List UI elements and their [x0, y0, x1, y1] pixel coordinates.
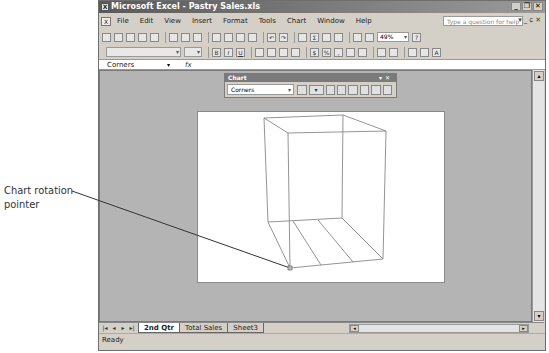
print-icon[interactable]	[169, 33, 178, 42]
font-select[interactable]	[106, 47, 181, 57]
scroll-down-icon[interactable]: ▾	[534, 311, 544, 321]
menu-window[interactable]: Window	[317, 17, 345, 25]
document-icon[interactable]: X	[101, 17, 111, 26]
window-controls: _ ❐ ✕	[511, 2, 543, 11]
percent-icon[interactable]: %	[322, 48, 331, 57]
font-size-select[interactable]	[184, 47, 202, 57]
menu-bar: X File Edit View Insert Format Tools Cha…	[99, 13, 545, 29]
angle-text-downward-icon[interactable]	[371, 85, 380, 95]
chart-toolbar-title-bar[interactable]: Chart ▾✕	[225, 74, 396, 82]
by-column-icon[interactable]	[360, 85, 369, 95]
toolbar-separator	[208, 32, 209, 43]
spelling-icon[interactable]	[193, 33, 202, 42]
horizontal-scrollbar[interactable]: ◂ ▸	[349, 324, 529, 333]
font-color-icon[interactable]: A	[432, 48, 441, 57]
menu-file[interactable]: File	[117, 17, 129, 25]
title-bar: X Microsoft Excel - Pastry Sales.xls _ ❐…	[99, 1, 545, 13]
hyperlink-icon[interactable]	[298, 33, 307, 42]
chart-wizard-icon[interactable]	[353, 33, 362, 42]
print-preview-icon[interactable]	[181, 33, 190, 42]
menu-help[interactable]: Help	[356, 17, 372, 25]
align-center-icon[interactable]	[267, 48, 276, 57]
sheet-tabs: 2nd Qtr Total Sales Sheet3	[139, 323, 264, 333]
restore-button[interactable]: ❐	[522, 2, 532, 11]
format-painter-icon[interactable]	[248, 33, 257, 42]
permission-icon[interactable]	[138, 33, 147, 42]
status-bar: Ready	[99, 333, 545, 346]
copy-icon[interactable]	[224, 33, 233, 42]
italic-icon[interactable]: I	[224, 48, 233, 57]
excel-app-icon: X	[101, 3, 109, 11]
redo-icon[interactable]: ↷	[279, 33, 288, 42]
align-right-icon[interactable]	[279, 48, 288, 57]
increase-indent-icon[interactable]	[389, 48, 398, 57]
prev-sheet-icon[interactable]: ◂	[110, 324, 118, 331]
menu-edit[interactable]: Edit	[140, 17, 154, 25]
drawing-icon[interactable]	[365, 33, 374, 42]
tab-2nd-qtr[interactable]: 2nd Qtr	[138, 323, 180, 333]
decrease-decimal-icon[interactable]	[358, 48, 367, 57]
chart-type-icon[interactable]: ▾	[309, 85, 324, 95]
by-row-icon[interactable]	[348, 85, 357, 95]
next-sheet-icon[interactable]: ▸	[119, 324, 127, 331]
sort-descending-icon[interactable]	[334, 33, 343, 42]
open-icon[interactable]	[114, 33, 123, 42]
vertical-scrollbar[interactable]: ▴ ▾	[532, 70, 544, 322]
scroll-up-icon[interactable]: ▴	[534, 71, 544, 81]
formula-bar: Corners ▾ fx	[99, 59, 545, 70]
toolbar-separator	[251, 47, 252, 58]
close-button[interactable]: ✕	[533, 2, 543, 11]
comma-icon[interactable]: ,	[334, 48, 343, 57]
minimize-button[interactable]: _	[511, 2, 521, 11]
menu-view[interactable]: View	[164, 17, 181, 25]
tab-sheet3[interactable]: Sheet3	[227, 323, 264, 333]
name-box[interactable]: Corners	[99, 60, 157, 70]
new-icon[interactable]	[102, 33, 111, 42]
chart-toolbar: Chart ▾✕ Corners ▾	[224, 73, 397, 98]
format-selected-object-icon[interactable]	[297, 85, 306, 95]
email-icon[interactable]	[150, 33, 159, 42]
name-box-dropdown-icon[interactable]: ▾	[167, 60, 170, 70]
toolbar-separator	[404, 47, 405, 58]
zoom-select[interactable]: 49%	[377, 32, 409, 42]
underline-icon[interactable]: U	[236, 48, 245, 57]
paste-icon[interactable]	[236, 33, 245, 42]
document-window-controls[interactable]: ▾_ɕ✕	[518, 16, 543, 24]
currency-icon[interactable]: $	[310, 48, 319, 57]
undo-icon[interactable]: ↶	[267, 33, 276, 42]
legend-icon[interactable]	[326, 85, 335, 95]
window-title: Microsoft Excel - Pastry Sales.xls	[111, 2, 260, 11]
sort-ascending-icon[interactable]	[322, 33, 331, 42]
menu-chart[interactable]: Chart	[287, 17, 306, 25]
autosum-icon[interactable]: Σ	[310, 33, 319, 42]
borders-icon[interactable]	[408, 48, 417, 57]
angle-text-upward-icon[interactable]	[383, 85, 392, 95]
chart-sheet-area	[99, 70, 532, 322]
last-sheet-icon[interactable]: ▸|	[128, 324, 136, 331]
increase-decimal-icon[interactable]	[346, 48, 355, 57]
fill-color-icon[interactable]	[420, 48, 429, 57]
fx-icon[interactable]: fx	[185, 60, 192, 70]
cut-icon[interactable]	[212, 33, 221, 42]
menu-format[interactable]: Format	[223, 17, 248, 25]
decrease-indent-icon[interactable]	[377, 48, 386, 57]
chart-toolbar-body: Corners ▾	[225, 82, 396, 97]
chart-area[interactable]	[197, 111, 445, 283]
help-question-input[interactable]: Type a question for help	[443, 16, 523, 26]
menu-tools[interactable]: Tools	[259, 17, 276, 25]
first-sheet-icon[interactable]: |◂	[101, 324, 109, 331]
bold-icon[interactable]: B	[212, 48, 221, 57]
chart-objects-select[interactable]: Corners	[227, 84, 294, 95]
toolbar-separator	[349, 32, 350, 43]
scroll-left-icon[interactable]: ◂	[350, 325, 359, 332]
data-table-icon[interactable]	[337, 85, 346, 95]
merge-center-icon[interactable]	[291, 48, 300, 57]
tab-total-sales[interactable]: Total Sales	[179, 323, 228, 333]
help-icon[interactable]: ?	[412, 33, 421, 42]
save-icon[interactable]	[126, 33, 135, 42]
scroll-right-icon[interactable]: ▸	[519, 325, 528, 332]
menu-insert[interactable]: Insert	[192, 17, 212, 25]
standard-toolbar: ↶ ↷ Σ 49% ?	[99, 29, 545, 45]
chart-toolbar-controls[interactable]: ▾✕	[379, 74, 393, 82]
align-left-icon[interactable]	[255, 48, 264, 57]
